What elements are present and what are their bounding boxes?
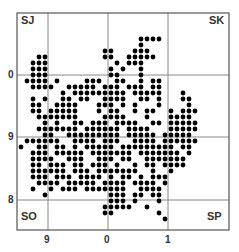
record-dot [31,151,36,156]
record-dot [85,169,90,174]
record-dot [181,115,186,120]
record-dot [109,97,114,102]
record-dot [151,187,156,192]
record-dot [121,67,126,72]
tick-x-1: 1 [165,234,171,245]
record-dot [109,67,114,72]
record-dot [61,145,66,150]
record-dot [181,91,186,96]
record-dot [163,181,168,186]
record-dot [79,139,84,144]
record-dot [37,55,42,60]
record-dot [181,145,186,150]
record-dot [157,193,162,198]
record-dot [163,217,168,222]
record-dot [103,211,108,216]
record-dot [127,127,132,132]
record-dot [115,169,120,174]
record-dot [139,127,144,132]
record-dot [151,55,156,60]
record-dot [61,109,66,114]
record-dot [67,115,72,120]
record-dot [79,151,84,156]
record-dot [175,121,180,126]
record-dot [85,85,90,90]
record-dot [109,85,114,90]
record-dot [145,133,150,138]
record-dot [37,151,42,156]
record-dot [133,139,138,144]
record-dot [109,109,114,114]
record-dot [73,139,78,144]
record-dot [139,85,144,90]
record-dot [187,127,192,132]
record-dot [85,133,90,138]
record-dot [91,91,96,96]
record-dot [109,145,114,150]
record-dot [145,157,150,162]
record-dot [157,97,162,102]
record-dot [127,175,132,180]
record-dot [109,175,114,180]
record-dot [31,67,36,72]
record-dot [37,175,42,180]
record-dot [49,109,54,114]
record-dot [169,121,174,126]
record-dot [169,163,174,168]
record-dot [55,109,60,114]
record-dot [109,169,114,174]
record-dot [169,133,174,138]
record-dot [145,187,150,192]
record-dot [55,103,60,108]
record-dot [103,121,108,126]
record-dot [157,121,162,126]
record-dot [169,157,174,162]
record-dot [121,175,126,180]
record-dot [127,169,132,174]
record-dot [139,61,144,66]
record-dot [79,121,84,126]
record-dot [133,169,138,174]
record-dot [103,205,108,210]
record-dot [109,115,114,120]
record-dot [127,121,132,126]
record-dot [127,133,132,138]
record-dot [73,181,78,186]
record-dot [91,127,96,132]
record-dot [187,103,192,108]
record-dot [37,127,42,132]
record-dot [43,157,48,162]
record-dot [115,97,120,102]
record-dot [31,61,36,66]
record-dot [139,67,144,72]
record-dot [175,127,180,132]
record-dot [139,145,144,150]
record-dot [109,127,114,132]
record-dot [103,49,108,54]
record-dot [187,115,192,120]
record-dot [103,163,108,168]
record-dot [103,85,108,90]
record-dot [121,79,126,84]
distribution-map: SJ SK SO SP 9 0 1 0 9 8 [0,0,239,252]
record-dot [145,97,150,102]
record-dot [145,181,150,186]
record-dot [109,157,114,162]
record-dot [133,61,138,66]
record-dot [109,211,114,216]
record-dot [127,145,132,150]
record-dot [49,187,54,192]
record-dot [85,145,90,150]
record-dot [85,187,90,192]
record-dot [181,163,186,168]
record-dot [169,127,174,132]
record-dot [139,181,144,186]
record-dot [103,127,108,132]
record-dot [85,175,90,180]
record-dot [151,37,156,42]
record-dot [145,145,150,150]
record-dot [133,109,138,114]
record-dot [139,91,144,96]
record-dot [115,79,120,84]
record-dot [115,121,120,126]
